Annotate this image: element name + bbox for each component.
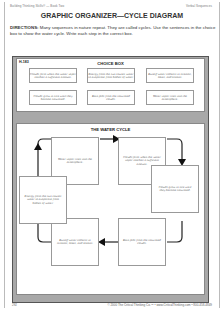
- water-cycle-diagram: THE WATER CYCLE Water vapor rises into t…: [16, 123, 205, 295]
- cycle-step-4: Rain falls from the saturated clouds.: [118, 218, 166, 266]
- directions-text: Many sequences in nature repeat. They ar…: [10, 25, 215, 36]
- header-book: Building Thinking Skills® — Book Two: [10, 4, 64, 8]
- choice-item: Runoff water collects in streams, lakes,…: [146, 68, 194, 83]
- choice-item: Water vapor rises into the atmosphere.: [146, 90, 194, 105]
- page-number: 292: [12, 303, 17, 307]
- cycle-step-3: Clouds grow in size until they become sa…: [151, 165, 199, 213]
- cycle-step-5: Runoff water collects in streams, lakes,…: [51, 218, 99, 266]
- page-title: GRAPHIC ORGANIZER—CYCLE DIAGRAM: [0, 12, 224, 19]
- directions: DIRECTIONS: Many sequences in nature rep…: [10, 25, 216, 36]
- choice-item: Clouds form when the water vapor reaches…: [29, 68, 77, 83]
- directions-label: DIRECTIONS:: [10, 25, 39, 30]
- choice-item: Rain falls from the saturated clouds.: [87, 90, 135, 105]
- choice-item: Clouds grow in size until they become sa…: [29, 90, 77, 105]
- header-section: Verbal Sequences: [186, 4, 212, 8]
- cycle-step-6: Energy from the sun causes water to evap…: [19, 176, 67, 224]
- choice-box-title: CHOICE BOX: [17, 61, 204, 66]
- choice-item: Energy from the sun causes water to evap…: [87, 68, 135, 83]
- choice-box: H-183 CHOICE BOX Clouds form when the wa…: [16, 58, 205, 112]
- copyright: © 2000 The Critical Thinking Co.™ • www.…: [107, 303, 212, 307]
